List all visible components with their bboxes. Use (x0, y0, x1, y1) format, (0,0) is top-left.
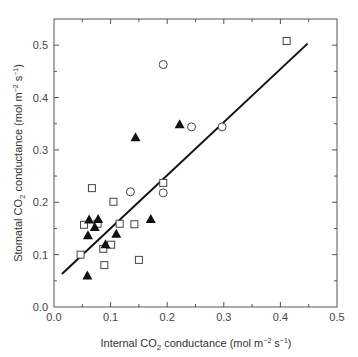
x-tick-label: 0.3 (216, 311, 231, 323)
y-tick-label: 0.2 (33, 196, 48, 208)
square-marker (135, 256, 142, 263)
x-axis-label: Internal CO2 conductance (mol m−2 s−1) (100, 337, 291, 352)
scatter-chart: 0.00.10.20.30.40.50.00.10.20.30.40.5 Int… (0, 0, 358, 357)
triangle-marker (84, 215, 94, 224)
square-marker (116, 220, 123, 227)
circle-marker (218, 123, 226, 131)
regression-line (62, 44, 308, 274)
y-axis-label: Stomatal CO2 conductance (mol m−2 s−1) (12, 64, 27, 262)
triangle-marker (111, 229, 121, 238)
x-tick-label: 0.4 (273, 311, 288, 323)
plot-frame (54, 19, 337, 307)
square-marker (77, 251, 84, 258)
y-tick-label: 0.0 (33, 301, 48, 313)
axis-ticks (54, 19, 337, 307)
triangle-marker (131, 132, 141, 141)
y-tick-label: 0.5 (33, 39, 48, 51)
square-marker (131, 221, 138, 228)
circle-marker (188, 123, 196, 131)
x-tick-label: 0.5 (329, 311, 344, 323)
circle-marker (159, 61, 167, 69)
triangle-marker (83, 230, 93, 239)
triangle-marker (146, 214, 156, 223)
triangle-marker (93, 214, 103, 223)
y-tick-label: 0.4 (33, 92, 48, 104)
square-marker (88, 185, 95, 192)
triangle-marker (82, 271, 92, 280)
circle-marker (159, 189, 167, 197)
tick-labels: 0.00.10.20.30.40.50.00.10.20.30.40.5 (33, 39, 345, 323)
y-tick-label: 0.3 (33, 144, 48, 156)
circle-marker (126, 188, 134, 196)
y-tick-label: 0.1 (33, 249, 48, 261)
triangle-marker (175, 119, 185, 128)
square-marker (160, 179, 167, 186)
square-marker (101, 262, 108, 269)
x-tick-label: 0.2 (160, 311, 175, 323)
x-tick-label: 0.0 (46, 311, 61, 323)
x-tick-label: 0.1 (103, 311, 118, 323)
square-marker (283, 37, 290, 44)
square-marker (110, 198, 117, 205)
